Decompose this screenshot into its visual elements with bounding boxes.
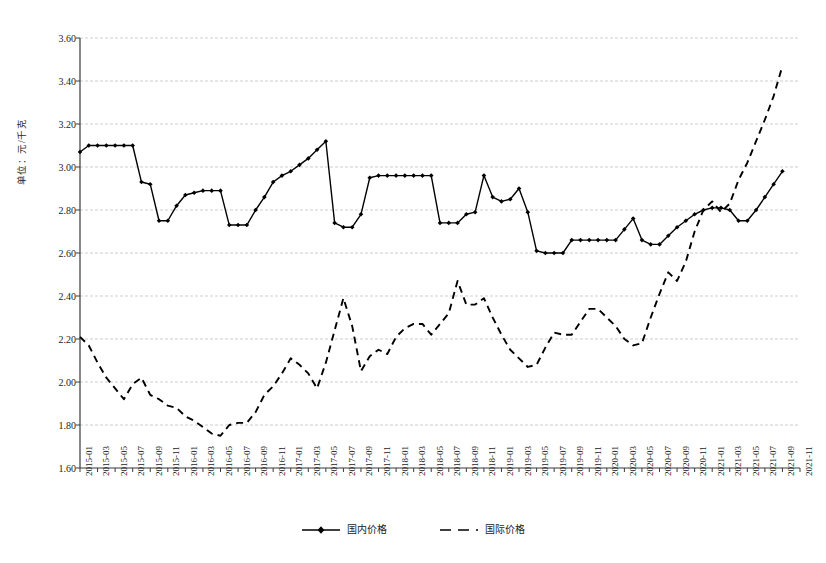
x-tick-label: 2015-05 [119, 446, 129, 476]
x-tick-label: 2017-11 [382, 446, 392, 476]
x-tick-label: 2020-01 [610, 446, 620, 476]
x-tick-label: 2018-01 [400, 446, 410, 476]
x-tick-label: 2018-11 [487, 446, 497, 476]
x-tick-label: 2020-03 [628, 446, 638, 476]
x-tick-label: 2021-11 [804, 446, 814, 476]
x-tick-label: 2020-05 [645, 446, 655, 476]
legend-item-domestic: 国内价格 [301, 524, 387, 536]
x-tick-label: 2020-09 [681, 446, 691, 476]
x-tick-label: 2016-05 [224, 446, 234, 476]
legend-swatch-solid [301, 524, 341, 536]
x-tick-label: 2021-03 [733, 446, 743, 476]
x-tick-label: 2019-05 [540, 446, 550, 476]
x-tick-label: 2015-01 [84, 446, 94, 476]
x-tick-label: 2018-03 [417, 446, 427, 476]
x-tick-label: 2017-01 [294, 446, 304, 476]
x-tick-label: 2021-01 [716, 446, 726, 476]
x-tick-label: 2016-07 [242, 446, 252, 476]
price-comparison-chart: 单位：元/千克 1.601.802.002.202.402.602.803.00… [0, 0, 826, 563]
x-tick-label: 2015-11 [171, 446, 181, 476]
chart-legend: 国内价格 国际价格 [0, 524, 826, 536]
x-tick-label: 2017-05 [329, 446, 339, 476]
x-tick-label: 2020-07 [663, 446, 673, 476]
x-tick-label: 2016-03 [206, 446, 216, 476]
x-tick-label: 2017-03 [312, 446, 322, 476]
x-tick-label: 2019-07 [558, 446, 568, 476]
x-tick-label: 2017-09 [364, 446, 374, 476]
x-tick-label: 2015-09 [154, 446, 164, 476]
x-tick-label: 2018-09 [470, 446, 480, 476]
x-tick-label: 2021-05 [751, 446, 761, 476]
x-axis-tick-labels: 2015-012015-032015-052015-072015-092015-… [0, 0, 826, 563]
x-tick-label: 2019-03 [523, 446, 533, 476]
x-tick-label: 2019-01 [505, 446, 515, 476]
legend-label-domestic: 国内价格 [347, 525, 387, 535]
x-tick-label: 2019-09 [575, 446, 585, 476]
legend-item-international: 国际价格 [439, 524, 525, 536]
x-tick-label: 2021-07 [768, 446, 778, 476]
x-tick-label: 2017-07 [347, 446, 357, 476]
x-tick-label: 2016-09 [259, 446, 269, 476]
legend-label-international: 国际价格 [485, 525, 525, 535]
x-tick-label: 2018-05 [435, 446, 445, 476]
x-tick-label: 2020-11 [698, 446, 708, 476]
x-tick-label: 2019-11 [593, 446, 603, 476]
x-tick-label: 2015-07 [136, 446, 146, 476]
x-tick-label: 2016-11 [277, 446, 287, 476]
x-tick-label: 2016-01 [189, 446, 199, 476]
x-tick-label: 2021-09 [786, 446, 796, 476]
x-tick-label: 2018-07 [452, 446, 462, 476]
x-tick-label: 2015-03 [101, 446, 111, 476]
legend-swatch-dashed [439, 524, 479, 536]
